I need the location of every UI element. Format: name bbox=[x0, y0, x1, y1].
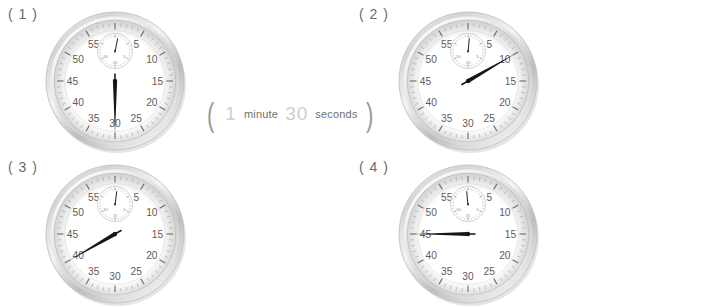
hand-pivot bbox=[113, 232, 117, 236]
dial-number: 35 bbox=[88, 113, 100, 124]
stopwatch-1: 6051015202530354045505515510 bbox=[42, 8, 188, 154]
dial-number: 15 bbox=[505, 76, 517, 87]
stopwatch-4: 6051015202530354045505515510 bbox=[395, 161, 541, 307]
dial-number: 50 bbox=[426, 207, 438, 218]
worksheet-sheet: ( 1 ) 6051015202530354045505515510 ( 1 m… bbox=[0, 0, 702, 307]
dial-number: 30 bbox=[462, 118, 474, 129]
question-panel-2: ( 2 ) 6051015202530354045505515510 ( 1 m… bbox=[351, 0, 702, 154]
dial-number: 40 bbox=[426, 250, 438, 261]
dial-number: 15 bbox=[152, 76, 164, 87]
dial-number: 5 bbox=[133, 39, 139, 50]
dial-number: 40 bbox=[73, 97, 85, 108]
dial-number: 5 bbox=[486, 192, 492, 203]
dial-number: 10 bbox=[146, 54, 158, 65]
dial-number: 5 bbox=[486, 39, 492, 50]
dial-number: 35 bbox=[441, 113, 453, 124]
answer-seconds-1[interactable]: 30 bbox=[285, 104, 308, 123]
question-label-2: ( 2 ) bbox=[359, 6, 389, 22]
hand-pivot bbox=[113, 79, 117, 83]
subdial-number: 15 bbox=[113, 60, 118, 65]
dial-number: 30 bbox=[109, 271, 121, 282]
stopwatch-2: 6051015202530354045505515510 bbox=[395, 8, 541, 154]
dial-number: 5 bbox=[133, 192, 139, 203]
dial-number: 45 bbox=[420, 76, 432, 87]
hand-pivot bbox=[466, 232, 470, 236]
question-panel-1: ( 1 ) 6051015202530354045505515510 ( 1 m… bbox=[0, 0, 351, 154]
answer-slot-1: ( 1 minute 30 seconds ) bbox=[205, 104, 375, 123]
stopwatch-3: 6051015202530354045505515510 bbox=[42, 161, 188, 307]
stopwatch-3-dial: 6051015202530354045505515510 bbox=[42, 161, 188, 307]
dial-number: 40 bbox=[426, 97, 438, 108]
dial-number: 15 bbox=[505, 229, 517, 240]
question-panel-4: ( 4 ) 6051015202530354045505515510 ( min… bbox=[351, 153, 702, 307]
dial-number: 35 bbox=[88, 266, 100, 277]
dial-number: 25 bbox=[484, 266, 496, 277]
subdial-number: 15 bbox=[466, 213, 471, 218]
dial-number: 20 bbox=[499, 97, 511, 108]
subdial-number: 10 bbox=[456, 54, 461, 59]
dial-number: 50 bbox=[73, 207, 85, 218]
dial-number: 15 bbox=[152, 229, 164, 240]
minute-unit-label-1: minute bbox=[244, 108, 278, 120]
question-label-1: ( 1 ) bbox=[8, 6, 38, 22]
stopwatch-4-dial: 6051015202530354045505515510 bbox=[395, 161, 541, 307]
dial-number: 20 bbox=[146, 250, 158, 261]
dial-number: 45 bbox=[67, 229, 79, 240]
answer-minutes-1[interactable]: 1 bbox=[225, 104, 237, 123]
subdial-number: 15 bbox=[466, 60, 471, 65]
dial-number: 45 bbox=[67, 76, 79, 87]
dial-number: 20 bbox=[499, 250, 511, 261]
question-label-4: ( 4 ) bbox=[359, 159, 389, 175]
dial-number: 20 bbox=[146, 97, 158, 108]
stopwatch-2-dial: 6051015202530354045505515510 bbox=[395, 8, 541, 154]
dial-number: 25 bbox=[484, 113, 496, 124]
subdial-number: 10 bbox=[456, 207, 461, 212]
question-label-3: ( 3 ) bbox=[8, 159, 38, 175]
dial-number: 50 bbox=[73, 54, 85, 65]
dial-number: 50 bbox=[426, 54, 438, 65]
dial-number: 30 bbox=[462, 271, 474, 282]
dial-number: 25 bbox=[131, 113, 143, 124]
subdial-number: 10 bbox=[103, 207, 108, 212]
dial-number: 10 bbox=[146, 207, 158, 218]
stopwatch-1-dial: 6051015202530354045505515510 bbox=[42, 8, 188, 154]
subdial-number: 10 bbox=[103, 54, 108, 59]
dial-number: 35 bbox=[441, 266, 453, 277]
dial-number: 10 bbox=[499, 207, 511, 218]
dial-number: 25 bbox=[131, 266, 143, 277]
hand-pivot bbox=[466, 79, 470, 83]
question-panel-3: ( 3 ) 6051015202530354045505515510 ( min… bbox=[0, 153, 351, 307]
subdial-number: 15 bbox=[113, 213, 118, 218]
